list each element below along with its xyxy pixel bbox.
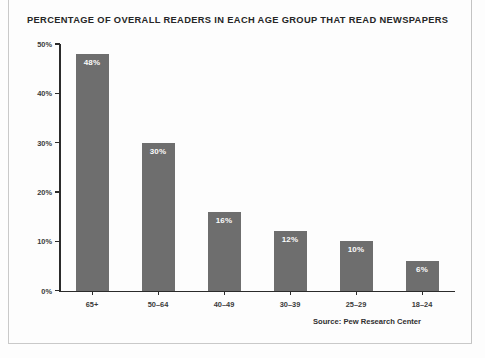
y-axis-tick-label: 50% <box>37 40 52 49</box>
y-axis-tick-label: 20% <box>37 187 52 196</box>
plot-area: 0%10%20%30%40%50% 48%30%16%12%10%6% 65+5… <box>59 44 455 292</box>
x-axis-tick <box>158 291 159 295</box>
bar-value-label: 30% <box>142 147 175 156</box>
y-axis-tick <box>55 241 60 242</box>
bar-value-label: 10% <box>340 245 373 254</box>
y-axis-tick-label: 40% <box>37 89 52 98</box>
y-axis-line <box>59 44 61 292</box>
x-axis-tick <box>224 291 225 295</box>
y-axis-tick-label: 30% <box>37 138 52 147</box>
y-axis-tick <box>55 191 60 192</box>
x-axis-category-label: 30–39 <box>280 300 301 309</box>
bar: 30% <box>142 143 175 291</box>
y-axis-tick-label: 10% <box>37 237 52 246</box>
x-axis-line <box>59 291 455 293</box>
bar-value-label: 48% <box>76 58 109 67</box>
y-axis-tick <box>55 290 60 291</box>
source-attribution: Source: Pew Research Center <box>313 317 421 326</box>
chart-title: PERCENTAGE OF OVERALL READERS IN EACH AG… <box>27 15 457 25</box>
y-axis-tick <box>55 93 60 94</box>
y-axis-tick-label: 0% <box>41 286 52 295</box>
page-border-bottom <box>8 343 472 344</box>
bar: 16% <box>208 212 241 291</box>
page-border-left <box>8 0 9 344</box>
y-axis-tick <box>55 43 60 44</box>
bar: 12% <box>274 231 307 290</box>
x-axis-category-label: 25–29 <box>346 300 367 309</box>
x-axis-category-label: 18–24 <box>412 300 433 309</box>
bar-value-label: 16% <box>208 216 241 225</box>
x-axis-tick <box>356 291 357 295</box>
x-axis-category-label: 65+ <box>86 300 99 309</box>
x-axis-tick <box>290 291 291 295</box>
page-border-right <box>471 0 472 344</box>
x-axis-tick <box>422 291 423 295</box>
x-axis-category-label: 40–49 <box>214 300 235 309</box>
x-axis-category-label: 50–64 <box>148 300 169 309</box>
y-axis-tick <box>55 142 60 143</box>
bar-value-label: 12% <box>274 235 307 244</box>
bar: 6% <box>406 261 439 291</box>
bar: 48% <box>76 54 109 291</box>
x-axis-tick <box>92 291 93 295</box>
chart-page: PERCENTAGE OF OVERALL READERS IN EACH AG… <box>0 0 485 358</box>
bar: 10% <box>340 241 373 290</box>
bar-value-label: 6% <box>406 265 439 274</box>
